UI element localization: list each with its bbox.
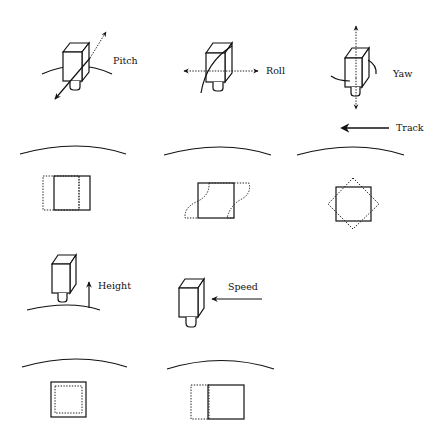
camera-icon [63, 43, 89, 90]
height-footprint [22, 359, 127, 417]
scaled-footprint-dotted [55, 386, 82, 413]
pitch-label: Pitch [113, 55, 138, 66]
yaw-label: Yaw [392, 68, 412, 79]
roll-footprint [164, 147, 271, 218]
roll-panel: Roll [184, 43, 285, 93]
pitch-axis-dotted-arrow [90, 32, 106, 58]
track-indicator: Track [342, 122, 424, 133]
skewed-footprint-left [185, 183, 209, 218]
ground-arc [167, 361, 274, 370]
nominal-footprint [51, 382, 86, 417]
height-panel: Height [27, 255, 131, 310]
track-label: Track [396, 122, 424, 133]
speed-panel: Speed [179, 279, 262, 327]
ground-arc [164, 147, 271, 155]
elongated-footprint-dotted [191, 385, 209, 419]
ground-arc [297, 147, 404, 155]
pitch-footprint [20, 146, 126, 210]
nominal-footprint [336, 187, 371, 221]
yaw-panel: Yaw [331, 26, 412, 109]
camera-icon [345, 48, 369, 96]
skewed-footprint-right [209, 183, 250, 218]
nominal-footprint [54, 176, 90, 210]
camera-motion-diagram: Pitch Roll Yaw Track [0, 0, 439, 438]
speed-label: Speed [228, 281, 258, 292]
pitch-panel: Pitch [42, 32, 138, 99]
ground-arc [22, 359, 127, 367]
shifted-footprint-dotted [43, 176, 79, 210]
nominal-footprint [208, 385, 244, 419]
speed-footprint [167, 361, 274, 420]
camera-icon [52, 255, 76, 302]
roll-label: Roll [266, 65, 285, 76]
camera-icon [179, 279, 204, 327]
height-label: Height [98, 280, 131, 291]
yaw-footprint [297, 147, 404, 229]
ground-arc [20, 146, 126, 154]
